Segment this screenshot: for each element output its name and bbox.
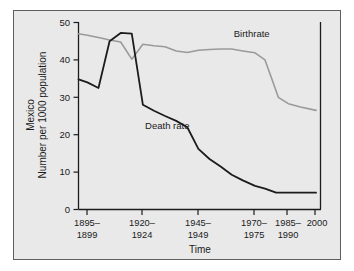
x-tick-label-line1: 2000 (307, 218, 328, 228)
y-tick-label: 40 (59, 54, 70, 65)
line-chart: 0 10 20 30 40 50 1895– 1899 1920– 1924 1… (0, 0, 354, 271)
x-tick-label-line1: 1895– (74, 218, 101, 228)
x-axis-title: Time (189, 244, 211, 255)
y-tick-label: 0 (65, 204, 70, 215)
series-line-death-rate (79, 33, 317, 193)
x-tick-label-line2: 1899 (77, 230, 98, 240)
y-axis-title-line2: Number per 1000 population (37, 52, 48, 179)
y-tick-label: 30 (59, 92, 70, 103)
x-axis-tick-labels: 1895– 1899 1920– 1924 1945– 1949 1970– 1… (74, 218, 327, 240)
x-tick-label-line1: 1970– (241, 218, 268, 228)
y-tick-label: 20 (59, 129, 70, 140)
x-tick-label-line2: 1949 (188, 230, 209, 240)
series-label-death-rate: Death rate (145, 120, 189, 131)
y-axis-ticks (74, 23, 79, 210)
y-tick-label: 10 (59, 166, 70, 177)
y-tick-label: 50 (59, 17, 70, 28)
x-tick-label-line1: 1920– (129, 218, 156, 228)
x-tick-label-line1: 1985– (275, 218, 302, 228)
y-axis-title-line1: Mexico (25, 99, 36, 131)
x-tick-label-line1: 1945– (185, 218, 212, 228)
x-tick-label-line2: 1924 (132, 230, 153, 240)
x-axis-ticks (87, 210, 315, 216)
series-line-birthrate (79, 34, 317, 111)
x-tick-label-line2: 1975 (244, 230, 265, 240)
x-tick-label-line2: 1990 (278, 230, 299, 240)
figure-container: 0 10 20 30 40 50 1895– 1899 1920– 1924 1… (0, 0, 354, 271)
y-axis-tick-labels: 0 10 20 30 40 50 (59, 17, 70, 215)
series-label-birthrate: Birthrate (234, 28, 270, 39)
